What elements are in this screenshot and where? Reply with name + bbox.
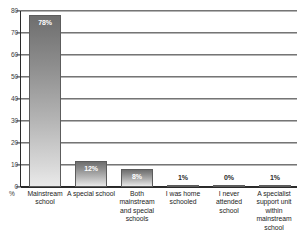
- bar-i-never-attended-school[interactable]: [213, 185, 245, 187]
- y-axis-tick-30: [16, 120, 21, 121]
- category-label-i-was-home-schooled: I was home schooled: [161, 190, 205, 207]
- bar-mainstream-school[interactable]: 78%: [29, 15, 61, 187]
- category-label-i-never-attended-school: I never attended school: [206, 190, 252, 215]
- bar-value-label-both-mainstream-and-special-schools: 8%: [122, 173, 152, 181]
- x-axis-category-labels: Mainstream school A special school Both …: [21, 190, 297, 232]
- bar-a-special-school[interactable]: 12%: [75, 161, 107, 187]
- bar-value-label-i-was-home-schooled: 1%: [167, 174, 199, 182]
- y-axis-unit-label: %: [9, 190, 15, 197]
- bar-a-specialist-support-unit[interactable]: [259, 185, 291, 187]
- y-axis-tick-60: [16, 54, 21, 55]
- category-label-a-special-school: A special school: [66, 190, 116, 198]
- bar-slot-both-mainstream-and-special-schools: 8%: [121, 11, 153, 187]
- y-axis-tick-70: [16, 32, 21, 33]
- bar-slot-a-special-school: 12%: [75, 11, 107, 187]
- bar-chart: 80 70 60 50 40 30 20 10 0 % 78%: [0, 0, 303, 232]
- category-label-both-mainstream-and-special-schools: Both mainstream and special schools: [113, 190, 161, 224]
- bar-value-label-i-never-attended-school: 0%: [213, 174, 245, 182]
- y-axis-tick-0: [16, 186, 21, 187]
- bar-both-mainstream-and-special-schools[interactable]: 8%: [121, 169, 153, 187]
- bar-slot-mainstream-school: 78%: [29, 11, 61, 187]
- y-axis-tick-10: [16, 164, 21, 165]
- category-label-mainstream-school: Mainstream school: [18, 190, 72, 207]
- bar-slot-i-was-home-schooled: 1%: [167, 11, 199, 187]
- bar-value-label-a-specialist-support-unit: 1%: [259, 174, 291, 182]
- bars-layer: 78% 12% 8% 1% 0% 1%: [21, 11, 297, 187]
- bar-i-was-home-schooled[interactable]: [167, 185, 199, 187]
- y-axis-tick-40: [16, 98, 21, 99]
- y-axis-tick-80: [16, 10, 21, 11]
- y-axis-tick-50: [16, 76, 21, 77]
- category-label-a-specialist-support-unit: A specialist support unit within mainstr…: [249, 190, 299, 232]
- bar-slot-i-never-attended-school: 0%: [213, 11, 245, 187]
- bar-slot-a-specialist-support-unit: 1%: [259, 11, 291, 187]
- y-axis-labels: 80 70 60 50 40 30 20 10 0: [0, 0, 20, 187]
- bar-value-label-a-special-school: 12%: [76, 165, 106, 173]
- bar-value-label-mainstream-school: 78%: [30, 19, 60, 27]
- y-axis-tick-20: [16, 142, 21, 143]
